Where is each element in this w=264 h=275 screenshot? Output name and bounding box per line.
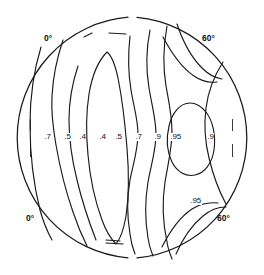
contour-line-0p5-left: [52, 40, 87, 246]
contour-line-0p5-center: [128, 36, 138, 254]
contour-label-0p4-center: .4: [99, 133, 106, 141]
contour-label-0p5-center: .5: [115, 133, 122, 141]
contour-label-0p95-lower: .95: [190, 197, 202, 205]
contour-label-0p7-center: .7: [135, 133, 142, 141]
contour-figure: .7 .5 .4 .4 .5 .7 .9 .95 .9 .95 0° 60° 0…: [0, 0, 264, 275]
contour-plot-svg: [0, 0, 264, 275]
contour-line-0p4-trough-loop: [87, 52, 129, 244]
contour-branch-upper-right: [163, 37, 217, 82]
contour-line-0p7-left: [30, 47, 52, 240]
contour-label-0p7-left: .7: [44, 133, 51, 141]
contour-line-0p7-center: [146, 30, 156, 256]
angle-label-top-right: 60°: [202, 34, 215, 43]
angle-label-bottom-left: 0°: [26, 214, 34, 223]
angle-label-bottom-right: 60°: [217, 214, 230, 223]
angle-label-top-left: 0°: [44, 34, 52, 43]
contour-label-0p95-cell: .95: [170, 133, 182, 141]
contour-label-0p4-left: .4: [79, 133, 86, 141]
contour-label-0p5-left: .5: [64, 133, 71, 141]
contour-label-0p9-right: .9: [207, 133, 214, 141]
contour-label-0p9-inner: .9: [154, 133, 161, 141]
